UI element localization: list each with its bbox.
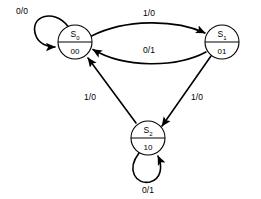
state-node-s2[interactable]: S2 10 [131,121,165,155]
edge-label-s2-s2: 0/1 [142,185,154,195]
diagram-canvas: S0 00 S1 01 S2 10 0/0 1/0 0/1 1/0 1 [0,0,261,199]
edge-s1-to-s2 [162,56,211,126]
state-encoding-s1: 01 [218,47,227,56]
edge-label-s1-s0: 0/1 [143,45,155,55]
state-diagram: S0 00 S1 01 S2 10 0/0 1/0 0/1 1/0 1 [0,0,261,199]
state-node-s1[interactable]: S1 01 [205,25,239,59]
edge-s2-to-s0 [88,58,136,123]
edge-label-s0-s1: 1/0 [143,8,155,18]
edge-label-s2-s0: 1/0 [84,92,96,102]
edge-s2-to-s2 [133,153,161,182]
state-encoding-s0: 00 [71,47,80,56]
edge-label-s1-s2: 1/0 [191,92,203,102]
edge-s0-to-s1 [92,23,206,36]
edge-label-s0-s0: 0/0 [16,6,28,16]
state-node-s0[interactable]: S0 00 [58,25,92,59]
state-encoding-s2: 10 [144,143,153,152]
